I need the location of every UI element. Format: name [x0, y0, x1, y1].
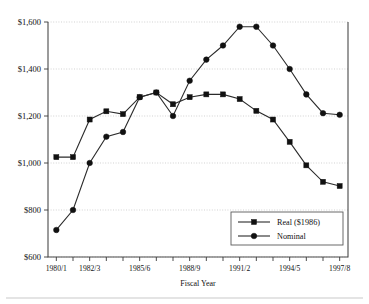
data-point	[137, 94, 143, 100]
data-point	[287, 139, 292, 144]
data-point	[337, 184, 342, 189]
x-axis-title: Fiscal Year	[180, 279, 216, 288]
data-point	[220, 43, 226, 49]
x-tick-label: 1994/5	[279, 264, 300, 273]
y-tick-label: $1,400	[18, 64, 41, 74]
y-tick-label: $600	[24, 252, 41, 262]
data-point	[320, 110, 326, 116]
y-axis-tick-labels: $600$800$1,000$1,200$1,400$1,600	[18, 17, 48, 262]
data-point	[254, 24, 260, 30]
y-tick-label: $1,000	[18, 158, 41, 168]
data-point	[204, 57, 210, 63]
data-point	[271, 117, 276, 122]
data-point	[171, 102, 176, 107]
data-point	[154, 90, 160, 96]
data-point	[287, 66, 293, 72]
data-point	[187, 78, 193, 84]
legend-label: Real ($1986)	[277, 218, 320, 227]
y-tick-label: $1,200	[18, 111, 41, 121]
data-point	[237, 97, 242, 102]
data-point	[270, 43, 276, 49]
data-point	[70, 207, 76, 213]
data-point	[337, 112, 343, 118]
y-tick-label: $800	[24, 205, 41, 215]
data-point	[204, 92, 209, 97]
y-tick-label: $1,600	[18, 17, 41, 27]
x-axis-ticks	[56, 257, 339, 261]
legend-label: Nominal	[277, 232, 306, 241]
x-tick-label: 1980/1	[46, 264, 67, 273]
line-chart: $600$800$1,000$1,200$1,400$1,600 1980/11…	[0, 0, 369, 304]
data-point	[54, 227, 60, 233]
data-point	[237, 24, 243, 30]
x-tick-label: 1988/9	[179, 264, 200, 273]
legend-sample-marker	[252, 220, 257, 225]
chart-figure: $600$800$1,000$1,200$1,400$1,600 1980/11…	[0, 0, 369, 304]
data-point	[304, 92, 310, 98]
series-2	[54, 24, 343, 233]
data-point	[87, 117, 92, 122]
data-point	[104, 134, 110, 140]
x-tick-label: 1997/8	[329, 264, 350, 273]
data-point	[304, 163, 309, 168]
x-axis-tick-labels: 1980/11982/31985/61988/91991/21994/51997…	[46, 264, 351, 273]
x-tick-label: 1982/3	[79, 264, 100, 273]
data-series-group	[54, 24, 343, 233]
series-line	[56, 27, 339, 230]
data-point	[254, 108, 259, 113]
x-tick-label: 1985/6	[129, 264, 150, 273]
chart-legend: Real ($1986)Nominal	[231, 212, 343, 245]
data-point	[104, 109, 109, 114]
x-tick-label: 1991/2	[229, 264, 250, 273]
series-line	[56, 93, 339, 187]
data-point	[71, 155, 76, 160]
series-1	[54, 90, 342, 189]
data-point	[121, 112, 126, 117]
data-point	[221, 92, 226, 97]
data-point	[87, 160, 93, 166]
data-point	[187, 95, 192, 100]
data-point	[120, 129, 126, 135]
data-point	[54, 155, 59, 160]
legend-sample-marker	[251, 233, 257, 239]
data-point	[321, 179, 326, 184]
data-point	[170, 113, 176, 119]
